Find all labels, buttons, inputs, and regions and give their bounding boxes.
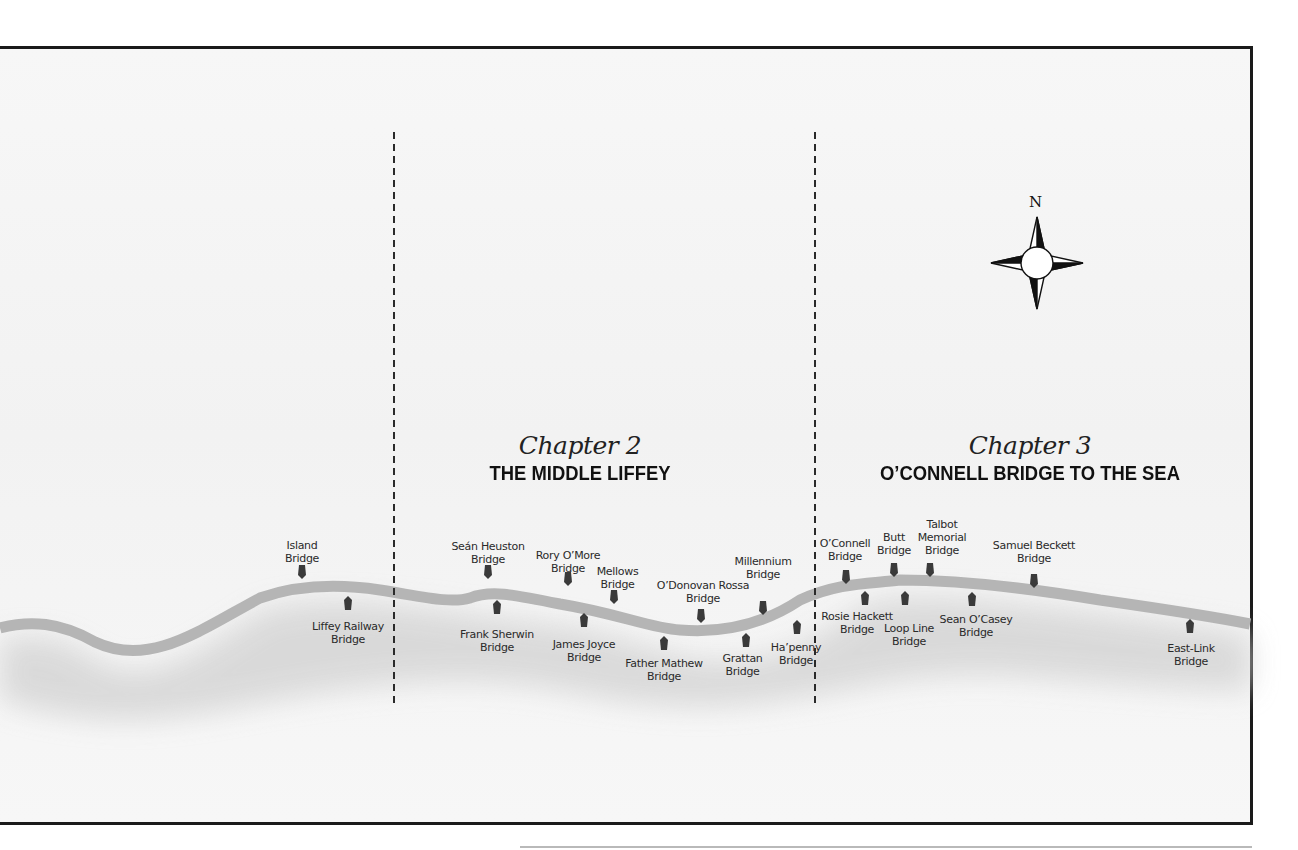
marker-sean-ocasey-bridge	[968, 592, 976, 606]
marker-grattan-bridge	[742, 633, 750, 647]
chapter-3-subtitle: O’CONNELL BRIDGE TO THE SEA	[874, 462, 1187, 484]
compass-north-label: N	[1029, 193, 1042, 211]
bridge-label-frank-sherwin: Frank SherwinBridge	[452, 628, 542, 654]
compass-rose-icon	[991, 217, 1083, 309]
chapter-3-title: Chapter 3	[930, 432, 1130, 460]
marker-father-mathew-bridge	[660, 636, 668, 650]
chapter-2-title: Chapter 2	[480, 432, 680, 460]
bridge-label-sean-heuston: Seán HeustonBridge	[443, 540, 533, 566]
bridge-label-james-joyce: James JoyceBridge	[544, 638, 624, 664]
bridge-label-odonovan-rossa: O’Donovan RossaBridge	[648, 579, 758, 605]
bridge-label-grattan: GrattanBridge	[715, 652, 770, 678]
marker-loop-line-bridge	[901, 591, 909, 605]
bridge-label-east-link: East-LinkBridge	[1160, 642, 1222, 668]
bridge-label-island: IslandBridge	[272, 539, 332, 565]
bridge-label-mellows: MellowsBridge	[590, 565, 645, 591]
marker-east-link-bridge	[1186, 619, 1194, 633]
bridge-label-hapenny: Ha’pennyBridge	[766, 641, 826, 667]
bridge-label-loop-line: Loop LineBridge	[878, 622, 940, 648]
bridge-label-sean-ocasey: Sean O’CaseyBridge	[936, 613, 1016, 639]
marker-hapenny-bridge	[793, 620, 801, 634]
marker-talbot-memorial-bridge	[926, 563, 934, 577]
bridge-label-oconnell: O’ConnellBridge	[812, 537, 878, 563]
bridge-label-talbot-memorial: TalbotMemorialBridge	[912, 518, 972, 557]
marker-rosie-hackett-bridge	[861, 591, 869, 605]
marker-liffey-railway-bridge	[344, 596, 352, 610]
bridge-label-samuel-beckett: Samuel BeckettBridge	[986, 539, 1082, 565]
marker-james-joyce-bridge	[580, 613, 588, 627]
river-map	[0, 0, 1298, 850]
marker-sean-heuston-bridge	[484, 565, 492, 579]
chapter-2-subtitle: THE MIDDLE LIFFEY	[451, 462, 709, 484]
bridge-label-butt: ButtBridge	[874, 531, 914, 557]
marker-odonovan-rossa-bridge	[697, 609, 705, 623]
marker-frank-sherwin-bridge	[493, 600, 501, 614]
marker-island-bridge	[298, 565, 306, 579]
marker-mellows-bridge	[610, 590, 618, 604]
bridge-label-liffey-railway: Liffey RailwayBridge	[303, 620, 393, 646]
bridge-label-millennium: MillenniumBridge	[728, 555, 798, 581]
bridge-label-father-mathew: Father MathewBridge	[614, 657, 714, 683]
